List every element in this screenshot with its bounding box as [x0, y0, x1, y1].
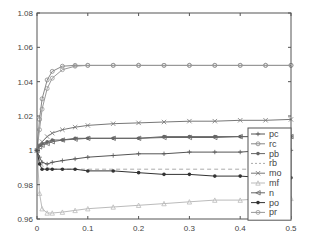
legend-label: mo — [269, 168, 282, 178]
legend-label: po — [269, 198, 279, 208]
legend-label: mf — [269, 178, 279, 188]
legend-label: rc — [269, 139, 277, 149]
legend-label: pr — [269, 207, 277, 217]
legend-label: n — [269, 188, 274, 198]
x-tick-label: 0.4 — [235, 224, 247, 233]
y-tick-label: 1.02 — [17, 112, 33, 121]
y-tick-label: 1 — [29, 146, 34, 155]
y-tick-label: 1.04 — [17, 78, 33, 87]
legend-label: rb — [269, 158, 277, 168]
y-tick-label: 1.08 — [17, 9, 33, 18]
x-tick-label: 0.3 — [184, 224, 196, 233]
line-chart: 00.10.20.30.40.5 0.960.9811.021.041.061.… — [0, 0, 309, 244]
legend-label: pb — [269, 149, 279, 159]
legend-label: pc — [269, 129, 279, 139]
x-tick-label: 0.1 — [82, 224, 94, 233]
y-tick-label: 0.98 — [17, 181, 33, 190]
y-tick-label: 0.96 — [17, 215, 33, 224]
x-tick-label: 0.5 — [285, 224, 297, 233]
x-tick-label: 0.2 — [133, 224, 145, 233]
y-tick-label: 1.06 — [17, 43, 33, 52]
x-tick-label: 0 — [35, 224, 40, 233]
legend: pcrcpbrbmomfnpopr — [248, 128, 291, 220]
